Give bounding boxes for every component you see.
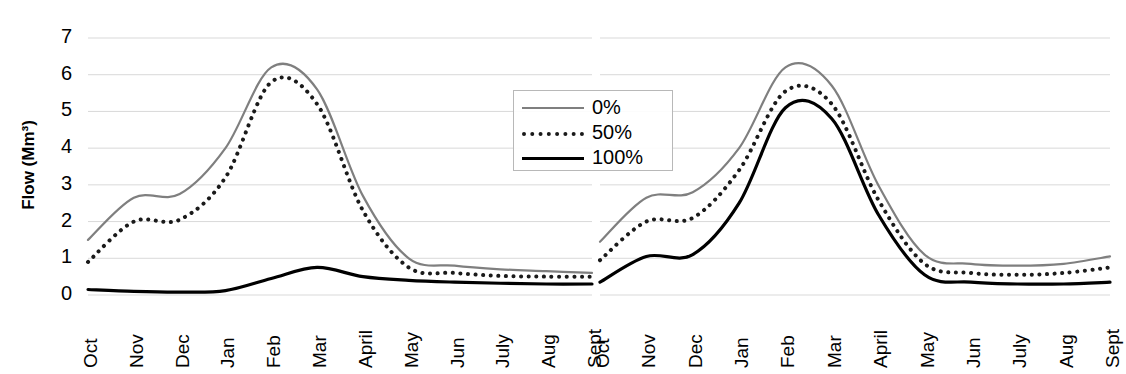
x-tick-left-aug: Aug — [538, 334, 560, 368]
x-tick-right-sept: Sept — [1102, 329, 1124, 368]
legend-line-swatch-50pct — [522, 125, 584, 139]
y-tick-7: 7 — [42, 25, 72, 48]
legend-entry-50pct: 50% — [522, 121, 632, 143]
x-tick-left-april: April — [355, 330, 377, 368]
x-tick-right-oct: Oct — [592, 338, 614, 368]
x-tick-left-nov: Nov — [126, 334, 148, 368]
x-tick-left-may: May — [401, 332, 423, 368]
x-tick-left-jun: Jun — [447, 337, 469, 368]
plot-canvas — [0, 0, 1126, 374]
x-tick-right-nov: Nov — [638, 334, 660, 368]
legend-line-swatch-0pct — [522, 100, 584, 114]
x-tick-left-july: July — [492, 334, 514, 368]
y-tick-2: 2 — [42, 209, 72, 232]
x-tick-right-jun: Jun — [963, 337, 985, 368]
x-tick-right-may: May — [917, 332, 939, 368]
legend-line-swatch-100pct — [522, 150, 584, 164]
x-tick-right-mar: Mar — [824, 335, 846, 368]
y-tick-0: 0 — [42, 282, 72, 305]
legend-label-50pct: 50% — [592, 122, 632, 142]
x-tick-left-feb: Feb — [263, 335, 285, 368]
x-tick-right-feb: Feb — [777, 335, 799, 368]
x-tick-left-oct: Oct — [80, 338, 102, 368]
legend-entry-0pct: 0% — [522, 96, 621, 118]
x-tick-left-mar: Mar — [309, 335, 331, 368]
series-line-50pct — [600, 86, 1110, 275]
y-tick-3: 3 — [42, 172, 72, 195]
series-line-100pct — [600, 100, 1110, 284]
y-tick-5: 5 — [42, 98, 72, 121]
x-tick-right-jan: Jan — [731, 337, 753, 368]
y-axis-title: Flow (Mm³) — [19, 110, 39, 220]
x-tick-right-april: April — [870, 330, 892, 368]
x-tick-right-july: July — [1009, 334, 1031, 368]
legend-label-0pct: 0% — [592, 97, 621, 117]
y-tick-1: 1 — [42, 245, 72, 268]
legend-label-100pct: 100% — [592, 147, 643, 167]
chart-figure: Flow (Mm³) 01234567 OctNovDecJanFebMarAp… — [0, 0, 1126, 374]
x-tick-left-jan: Jan — [217, 337, 239, 368]
x-tick-left-dec: Dec — [172, 334, 194, 368]
legend-entry-100pct: 100% — [522, 146, 643, 168]
x-tick-right-aug: Aug — [1056, 334, 1078, 368]
x-tick-right-dec: Dec — [685, 334, 707, 368]
legend: 0% 50% 100% — [513, 90, 673, 171]
y-tick-4: 4 — [42, 135, 72, 158]
y-tick-6: 6 — [42, 62, 72, 85]
